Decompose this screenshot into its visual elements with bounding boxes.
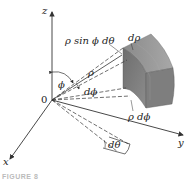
d-phi-label: dϕ	[84, 87, 97, 97]
x-axis	[10, 100, 52, 159]
arc-phi-label: ρ dϕ	[128, 112, 150, 122]
y-axis-label: y	[178, 138, 184, 148]
d-theta-label: dθ	[108, 140, 120, 150]
z-axis-label: z	[42, 6, 47, 16]
spherical-volume-element-figure: z y x 0 ρ sin ϕ dθ dρ ρ ϕ dϕ ρ dϕ dθ FIG…	[0, 0, 188, 179]
x-axis-label: x	[3, 157, 9, 167]
figure-caption: FIGURE 8	[2, 173, 38, 179]
volume-element-solid	[123, 34, 174, 108]
arc-theta-label: ρ sin ϕ dθ	[65, 36, 114, 46]
origin-label: 0	[41, 95, 47, 105]
phi-label: ϕ	[58, 80, 65, 90]
rho-label: ρ	[88, 68, 94, 78]
d-rho-label: dρ	[128, 33, 140, 43]
dashed-rays	[52, 48, 130, 152]
